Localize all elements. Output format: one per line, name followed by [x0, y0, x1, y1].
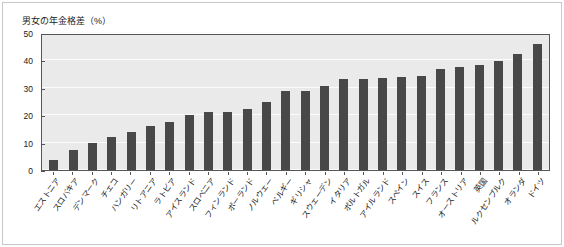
- bar: [513, 54, 522, 170]
- bar: [146, 126, 155, 170]
- y-axis-tick: [41, 116, 45, 117]
- bar: [494, 61, 503, 170]
- bar: [436, 69, 445, 170]
- x-axis-tick-label: ドイツ: [525, 175, 547, 200]
- x-axis-category: スペイン: [398, 172, 407, 246]
- x-axis-category: ベルギー: [281, 172, 290, 246]
- bar: [475, 65, 484, 170]
- bar: [281, 91, 290, 170]
- bar: [262, 102, 271, 171]
- bar: [204, 112, 213, 170]
- x-axis-category: スイス: [417, 172, 426, 246]
- x-axis-category: オーストリア: [456, 172, 465, 246]
- x-axis-category: ドイツ: [534, 172, 543, 246]
- y-axis-tick: [41, 144, 45, 145]
- bar: [339, 79, 348, 170]
- bar: [107, 137, 116, 170]
- bar: [397, 77, 406, 170]
- bar: [301, 91, 310, 170]
- x-axis-category: ノルウェー: [262, 172, 271, 246]
- chart-title: 男女の年金格差（%）: [22, 14, 111, 27]
- x-axis-category: デンマーク: [87, 172, 96, 246]
- bar: [88, 143, 97, 170]
- x-axis-category: リトアニア: [145, 172, 154, 246]
- bar: [165, 122, 174, 170]
- y-axis-tick-label: 10: [24, 139, 33, 149]
- bar: [378, 78, 387, 170]
- bar: [127, 132, 136, 170]
- x-axis-category: オランダ: [514, 172, 523, 246]
- gridline: [42, 32, 549, 33]
- bar-series: [42, 35, 549, 170]
- y-axis-tick: [41, 171, 45, 172]
- bar: [359, 79, 368, 170]
- bar: [455, 67, 464, 170]
- y-axis-tick: [41, 61, 45, 62]
- y-axis-tick-label: 30: [24, 84, 33, 94]
- y-axis: 01020304050: [0, 34, 37, 171]
- y-axis-tick-label: 50: [24, 29, 33, 39]
- plot-area: [41, 34, 550, 171]
- bar: [243, 109, 252, 170]
- y-axis-tick-label: 40: [24, 56, 33, 66]
- bar: [533, 44, 542, 170]
- x-axis-category: スウェーデン: [320, 172, 329, 246]
- x-axis: エストニアスロバキアデンマークチェコハンガリーリトアニアラトビアアイスランドスロ…: [41, 172, 550, 246]
- pension-gender-gap-chart-figure: 男女の年金格差（%） 01020304050 エストニアスロバキアデンマークチェ…: [0, 0, 564, 247]
- y-axis-tick-label: 0: [28, 166, 33, 176]
- bar: [417, 76, 426, 170]
- x-axis-category: ルクセンブルク: [495, 172, 504, 246]
- bar: [49, 160, 58, 170]
- bar: [223, 112, 232, 170]
- bar: [185, 115, 194, 170]
- y-axis-tick: [41, 89, 45, 90]
- y-axis-tick-label: 20: [24, 111, 33, 121]
- bar: [320, 86, 329, 170]
- bar: [69, 150, 78, 170]
- x-axis-category: アイルランド: [378, 172, 387, 246]
